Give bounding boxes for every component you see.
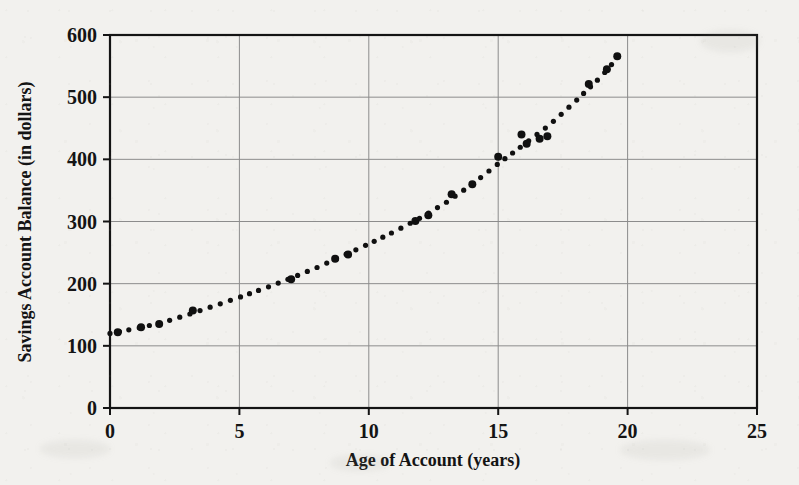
data-point — [331, 255, 339, 263]
data-point — [448, 190, 456, 198]
data-point — [155, 320, 163, 328]
trend-dot — [581, 91, 586, 96]
data-point — [137, 323, 145, 331]
data-point — [468, 180, 476, 188]
trend-dot — [510, 150, 515, 155]
axis-tick-labels-group: 01002003004005006000510152025 — [67, 24, 767, 442]
trend-dot — [502, 156, 507, 161]
trend-dot — [107, 331, 112, 336]
data-point — [585, 80, 593, 88]
trend-dot — [559, 112, 564, 117]
data-points-group — [114, 52, 621, 336]
trend-dot — [372, 239, 377, 244]
trend-dot — [461, 188, 466, 193]
trend-dot — [478, 175, 483, 180]
data-point — [536, 135, 544, 143]
trend-dot — [228, 298, 233, 303]
y-axis-tick-label: 0 — [87, 397, 97, 419]
trend-dot — [435, 205, 440, 210]
trend-dot — [380, 235, 385, 240]
x-axis-tick-label: 15 — [488, 420, 508, 442]
y-axis-tick-label: 100 — [67, 335, 97, 357]
trend-dot — [363, 243, 368, 248]
trend-dot — [486, 168, 491, 173]
trend-dot — [177, 315, 182, 320]
trend-dot — [305, 269, 310, 274]
data-point — [603, 65, 611, 73]
data-point — [411, 217, 419, 225]
data-point — [287, 275, 295, 283]
trend-dot — [353, 247, 358, 252]
trend-dot — [314, 265, 319, 270]
x-axis-tick-label: 25 — [747, 420, 767, 442]
y-axis-tick-label: 400 — [67, 148, 97, 170]
trend-dot — [566, 105, 571, 110]
trend-dot — [266, 284, 271, 289]
data-point — [613, 52, 621, 60]
y-axis-tick-label: 600 — [67, 24, 97, 46]
x-axis-title: Age of Account (years) — [346, 450, 520, 471]
data-point — [344, 250, 352, 258]
trend-dot — [398, 226, 403, 231]
trend-dot — [208, 305, 213, 310]
y-axis-title: Savings Account Balance (in dollars) — [15, 81, 36, 362]
trend-dot — [543, 125, 548, 130]
x-axis-tick-label: 20 — [618, 420, 638, 442]
trend-dot — [197, 308, 202, 313]
data-point — [523, 140, 531, 148]
trend-dot — [218, 301, 223, 306]
trend-dot — [574, 97, 579, 102]
x-axis-tick-label: 5 — [234, 420, 244, 442]
x-axis-tick-label: 10 — [359, 420, 379, 442]
gridlines-group — [110, 35, 757, 408]
trend-dot — [389, 230, 394, 235]
trend-dot — [444, 200, 449, 205]
x-axis-tick-label: 0 — [105, 420, 115, 442]
data-point — [114, 328, 122, 336]
trend-dot — [276, 280, 281, 285]
trend-dot — [167, 318, 172, 323]
data-point — [424, 211, 432, 219]
trend-dot — [295, 273, 300, 278]
data-point — [189, 306, 197, 314]
trend-dot — [126, 327, 131, 332]
y-axis-tick-label: 200 — [67, 273, 97, 295]
scatter-plot-figure: 01002003004005006000510152025 Age of Acc… — [0, 0, 799, 485]
y-axis-tick-label: 500 — [67, 86, 97, 108]
trend-dot — [324, 260, 329, 265]
data-point — [517, 130, 525, 138]
chart-canvas: 01002003004005006000510152025 Age of Acc… — [0, 0, 799, 485]
trend-dot — [256, 288, 261, 293]
trend-dot — [518, 145, 523, 150]
trend-dot — [238, 294, 243, 299]
trend-dot — [595, 78, 600, 83]
trend-dot — [551, 119, 556, 124]
y-axis-tick-label: 300 — [67, 211, 97, 233]
dotted-trend-curve — [107, 54, 621, 336]
trend-dot — [247, 291, 252, 296]
trend-dot — [147, 323, 152, 328]
data-point — [494, 153, 502, 161]
axis-ticks-group — [103, 35, 757, 415]
data-point — [543, 132, 551, 140]
trend-dot — [495, 162, 500, 167]
